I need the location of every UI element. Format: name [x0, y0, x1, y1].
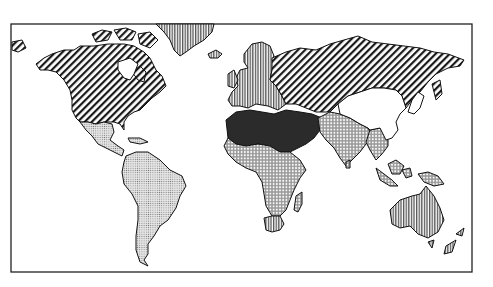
region-sri-lanka [346, 160, 350, 168]
world-map-svg [0, 0, 493, 287]
world-map [0, 0, 493, 287]
